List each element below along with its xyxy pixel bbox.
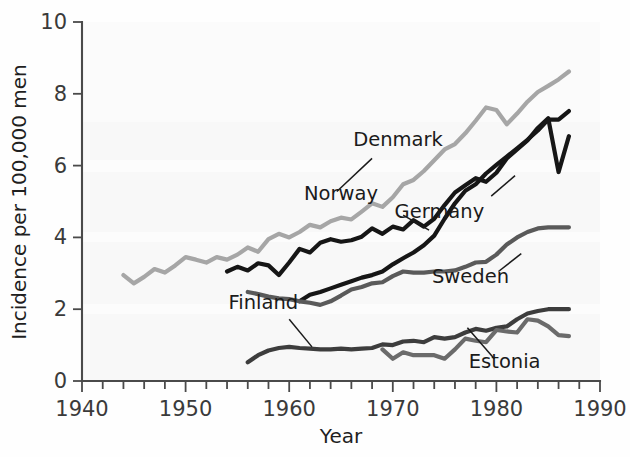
y-tick-label: 6 (54, 154, 67, 178)
paper-band-3 (82, 304, 600, 314)
x-axis-title: Year (319, 424, 363, 448)
x-tick-label: 1960 (262, 397, 315, 421)
x-tick-label: 1970 (366, 397, 419, 421)
x-tick-label: 1990 (573, 397, 626, 421)
x-tick-label: 1950 (159, 397, 212, 421)
y-tick-label: 0 (54, 369, 67, 393)
y-tick-label: 8 (54, 82, 67, 106)
series-label-norway: Norway (304, 182, 378, 205)
x-tick-label: 1940 (55, 397, 108, 421)
y-tick-label: 2 (54, 297, 67, 321)
series-label-finland: Finland (228, 291, 298, 314)
y-tick-label: 10 (40, 10, 67, 34)
y-tick-label: 4 (54, 225, 67, 249)
series-label-germany: Germany (395, 200, 485, 223)
line-chart: 0246810194019501960197019801990 DenmarkN… (0, 0, 630, 457)
paper-band-1 (82, 160, 600, 172)
series-label-estonia: Estonia (469, 350, 541, 373)
y-axis-title: Incidence per 100,000 men (7, 64, 31, 340)
series-label-denmark: Denmark (353, 128, 443, 151)
x-tick-label: 1980 (470, 397, 523, 421)
chart-figure: 0246810194019501960197019801990 DenmarkN… (0, 0, 630, 457)
series-label-sweden: Sweden (432, 265, 509, 288)
